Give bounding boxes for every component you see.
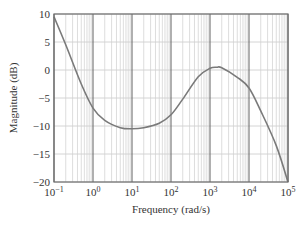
y-tick-label: −5 (38, 92, 50, 104)
x-tick-label: 100 (86, 185, 101, 198)
x-tick-label: 105 (281, 185, 296, 198)
x-tick-label: 101 (125, 185, 140, 198)
y-tick-label: 0 (45, 64, 51, 76)
y-tick-label: 5 (45, 36, 51, 48)
y-axis-label: Magnitude (dB) (7, 62, 20, 133)
x-axis-label: Frequency (rad/s) (132, 203, 210, 216)
y-axis-tick-labels: 1050−5−10−15−20 (33, 8, 51, 188)
x-tick-label: 103 (203, 185, 218, 198)
y-tick-label: −15 (33, 148, 51, 160)
y-tick-label: 10 (39, 8, 51, 20)
y-tick-label: −10 (33, 120, 51, 132)
bode-magnitude-chart: 1050−5−10−15−20 10−1100101102103104105 F… (0, 0, 305, 227)
x-tick-label: 10−1 (44, 185, 64, 198)
x-tick-label: 102 (164, 185, 179, 198)
x-axis-tick-labels: 10−1100101102103104105 (44, 185, 295, 198)
x-tick-label: 104 (242, 185, 257, 198)
